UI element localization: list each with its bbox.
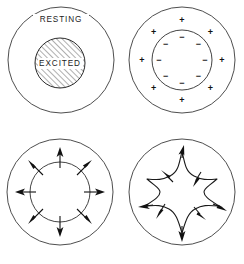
excited-label: EXCITED xyxy=(39,59,81,68)
tip-arrow-icon xyxy=(213,204,227,211)
plus-sign-icon: + xyxy=(208,83,213,93)
plus-sign-icon: + xyxy=(179,95,184,105)
minus-sign-icon: − xyxy=(156,55,161,65)
tip-arrow-icon xyxy=(178,226,185,242)
plus-sign-icon: + xyxy=(179,15,184,25)
star-tip-arrow-group xyxy=(138,145,227,242)
negative-charge-group: − − − − − − − − xyxy=(156,32,207,88)
minus-sign-icon: − xyxy=(196,71,201,81)
plus-sign-icon: + xyxy=(139,55,144,65)
propagation-arrow-icon xyxy=(28,160,43,175)
notch-arrow-icon xyxy=(161,170,173,182)
propagation-arrow-icon xyxy=(15,189,36,196)
plus-sign-icon: + xyxy=(151,83,156,93)
resting-label: RESTING xyxy=(40,15,83,24)
propagation-arrow-icon xyxy=(84,189,105,196)
panel-resting-excited: RESTING EXCITED xyxy=(0,0,122,132)
notch-arrow-icon xyxy=(193,172,201,187)
minus-sign-icon: − xyxy=(179,32,184,42)
star-wavefront-path xyxy=(145,151,219,233)
minus-sign-icon: − xyxy=(163,39,168,49)
plus-sign-icon: + xyxy=(219,55,224,65)
minus-sign-icon: − xyxy=(163,71,168,81)
propagation-arrow-icon xyxy=(28,209,43,224)
propagation-arrow-icon xyxy=(57,216,64,237)
propagation-arrow-icon xyxy=(57,147,64,168)
plus-sign-icon: + xyxy=(151,27,156,37)
propagation-arrow-group xyxy=(15,147,105,237)
panel-star-wavefront xyxy=(122,132,244,264)
minus-sign-icon: − xyxy=(179,78,184,88)
minus-sign-icon: − xyxy=(202,55,207,65)
minus-sign-icon: − xyxy=(196,39,201,49)
notch-arrow-icon xyxy=(194,207,206,220)
propagation-arrow-icon xyxy=(77,209,92,224)
panel-radial-propagation xyxy=(0,132,122,264)
propagation-arrow-icon xyxy=(77,160,92,175)
plus-sign-icon: + xyxy=(208,27,213,37)
tip-arrow-icon xyxy=(138,204,153,210)
figure-root: RESTING EXCITED + + + + + + + + − − − − … xyxy=(0,0,244,264)
panel-polarity: + + + + + + + + − − − − − − − − xyxy=(122,0,244,132)
